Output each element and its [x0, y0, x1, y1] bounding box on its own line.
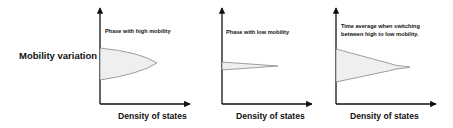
panel-title-time-average-line2: between high to low mobility.: [341, 31, 419, 38]
distribution-shape: [100, 48, 157, 80]
panel-title-high-mobility: Phase with high mobility: [105, 28, 171, 35]
x-axis-label-panel2: Density of states: [236, 111, 305, 121]
panel-high-mobility: [100, 8, 190, 104]
distribution-shape: [222, 62, 278, 70]
panel-title-time-average-line1: Time average when switching: [341, 23, 420, 30]
panel-title-low-mobility: Phase with low mobility: [226, 29, 289, 36]
panel-low-mobility: [222, 8, 312, 104]
diagram-canvas: [0, 0, 453, 128]
y-axis-label: Mobility variation: [19, 50, 97, 61]
distribution-shape: [336, 49, 410, 82]
x-axis-label-panel1: Density of states: [118, 111, 187, 121]
x-axis-label-panel3: Density of states: [350, 111, 419, 121]
